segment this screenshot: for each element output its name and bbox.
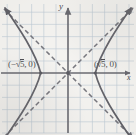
annotation-right-vertex: (√5, 0) [94, 59, 117, 69]
origin-point [66, 71, 70, 75]
vertex-point-right [94, 71, 97, 74]
right-vertex-tail: , 0) [105, 59, 116, 69]
hyperbola-figure: (−√5, 0) (√5, 0) y x [0, 0, 136, 135]
vertex-point-left [39, 71, 42, 74]
left-vertex-radical: √5 [16, 59, 25, 69]
y-axis-label: y [59, 2, 63, 11]
annotation-left-vertex: (−√5, 0) [8, 59, 35, 69]
left-vertex-tail: , 0) [24, 59, 35, 69]
x-axis-label: x [127, 74, 130, 82]
